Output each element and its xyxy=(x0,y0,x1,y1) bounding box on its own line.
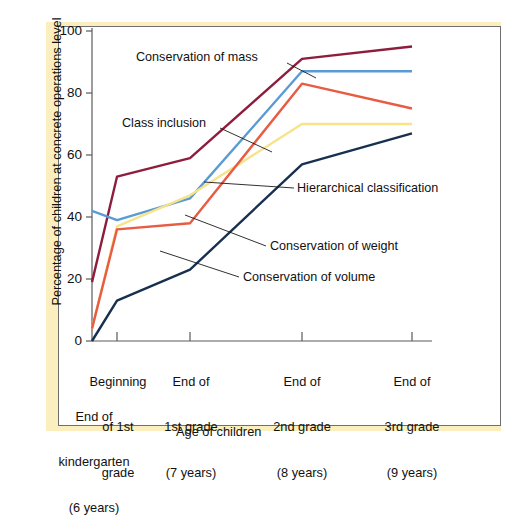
x-category-label-1: Beginning of 1st grade xyxy=(78,344,158,510)
x-category-3-line-0: End of xyxy=(263,374,341,389)
leader-line-conservation-of-volume xyxy=(160,251,239,277)
x-category-label-3: End of 2nd grade (8 years) xyxy=(263,344,341,510)
x-category-4-line-1: 3rd grade xyxy=(373,419,451,434)
x-category-2-line-2: (7 years) xyxy=(152,465,230,480)
series-annotation-conservation-of-weight: Conservation of weight xyxy=(270,239,398,254)
series-annotation-hierarchical-classification: Hierarchical classification xyxy=(297,181,438,196)
leader-line-conservation-of-weight xyxy=(185,215,266,246)
x-category-4-line-2: (9 years) xyxy=(373,465,451,480)
y-axis-title: Percentage of children at concrete opera… xyxy=(49,76,64,306)
x-category-2-line-0: End of xyxy=(152,374,230,389)
x-category-3-line-1: 2nd grade xyxy=(263,419,341,434)
x-category-1-line-0: Beginning xyxy=(78,374,158,389)
series-annotation-conservation-of-mass: Conservation of mass xyxy=(136,50,258,65)
series-annotation-conservation-of-volume: Conservation of volume xyxy=(243,270,375,285)
x-axis-title: Age of children xyxy=(176,424,261,439)
x-category-1-line-2: grade xyxy=(78,465,158,480)
x-category-label-4: End of 3rd grade (9 years) xyxy=(373,344,451,510)
series-annotation-class-inclusion: Class inclusion xyxy=(122,116,206,131)
x-category-3-line-2: (8 years) xyxy=(263,465,341,480)
y-tick-label-0: 0 xyxy=(48,333,82,349)
x-category-4-line-0: End of xyxy=(373,374,451,389)
x-category-1-line-1: of 1st xyxy=(78,419,158,434)
series-line-conservation-of-volume xyxy=(92,133,412,341)
